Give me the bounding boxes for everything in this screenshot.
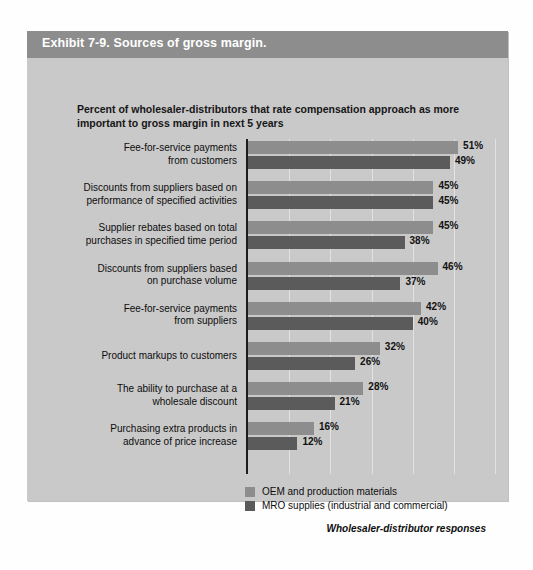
category-label-line: Purchasing extra products in [57,423,237,436]
category-label-line: Product markups to customers [57,350,237,363]
legend-label: MRO supplies (industrial and commercial) [262,500,448,511]
bar-row: 49% [248,156,533,169]
bar-value-label: 40% [418,316,438,327]
category-label-line: The ability to purchase at a [57,383,237,396]
bar-mro [248,196,433,209]
category-label: Supplier rebates based on totalpurchases… [57,222,237,247]
category-label-line: from suppliers [57,315,237,328]
bar-mro [248,317,413,330]
bar-group: Discounts from suppliers basedon purchas… [54,262,533,290]
bar-row: 51% [248,141,533,154]
bar-value-label: 16% [319,421,339,432]
bar-value-label: 45% [438,220,458,231]
bar-value-label: 26% [360,356,380,367]
bar-value-label: 37% [405,276,425,287]
category-label-line: wholesale discount [57,396,237,409]
bar-group: Supplier rebates based on totalpurchases… [54,221,533,249]
legend-item: OEM and production materials [245,486,448,497]
bar-mro [248,236,405,249]
bar-group: Product markups to customers32%26% [54,342,533,370]
legend-swatch [245,501,255,511]
category-label-line: Discounts from suppliers based [57,263,237,276]
bar-value-label: 32% [385,341,405,352]
bar-row: 40% [248,317,533,330]
chart-plot-area: Fee-for-service paymentsfrom customers51… [54,131,533,479]
category-label-line: from customers [57,155,237,168]
bar-mro [248,156,450,169]
bar-row: 42% [248,302,533,315]
bar-oem [248,141,458,154]
exhibit-title-bar: Exhibit 7-9. Sources of gross margin. [27,31,508,58]
category-label-line: Fee-for-service payments [57,142,237,155]
bar-value-label: 21% [340,396,360,407]
category-label-line: Fee-for-service payments [57,303,237,316]
bar-row: 45% [248,221,533,234]
bar-row: 12% [248,437,533,450]
bar-mro [248,357,355,370]
category-label-line: advance of price increase [57,436,237,449]
exhibit-page: Exhibit 7-9. Sources of gross margin. Pe… [0,0,533,570]
bar-row: 26% [248,357,533,370]
bar-value-label: 28% [368,381,388,392]
bar-oem [248,302,421,315]
chart-subtitle: Percent of wholesaler-distributors that … [77,103,502,130]
bar-row: 45% [248,196,533,209]
bar-oem [248,342,380,355]
bar-group: Purchasing extra products inadvance of p… [54,422,533,450]
legend-item: MRO supplies (industrial and commercial) [245,500,448,511]
bar-oem [248,181,433,194]
bar-mro [248,277,400,290]
bar-group: Fee-for-service paymentsfrom suppliers42… [54,302,533,330]
category-label: Discounts from suppliers basedon purchas… [57,263,237,288]
category-label-line: Supplier rebates based on total [57,222,237,235]
category-label: The ability to purchase at awholesale di… [57,383,237,408]
bar-row: 37% [248,277,533,290]
bar-value-label: 49% [455,155,475,166]
bar-value-label: 42% [426,301,446,312]
chart-legend: OEM and production materialsMRO supplies… [245,486,448,514]
category-label: Fee-for-service paymentsfrom customers [57,142,237,167]
bar-mro [248,437,297,450]
category-label-line: Discounts from suppliers based on [57,182,237,195]
category-label-line: purchases in specified time period [57,235,237,248]
legend-swatch [245,487,255,497]
bar-row: 46% [248,262,533,275]
bar-oem [248,422,314,435]
bar-row: 38% [248,236,533,249]
bar-value-label: 45% [438,180,458,191]
bar-value-label: 45% [438,195,458,206]
bar-group: Fee-for-service paymentsfrom customers51… [54,141,533,169]
category-label: Fee-for-service paymentsfrom suppliers [57,303,237,328]
category-label-line: on purchase volume [57,275,237,288]
bar-row: 32% [248,342,533,355]
category-label-line: performance of specified activities [57,195,237,208]
bar-oem [248,262,438,275]
bar-value-label: 46% [443,261,463,272]
bar-group: Discounts from suppliers based onperform… [54,181,533,209]
bar-mro [248,397,335,410]
category-label: Discounts from suppliers based onperform… [57,182,237,207]
bar-value-label: 38% [410,235,430,246]
bar-value-label: 51% [463,140,483,151]
category-label: Purchasing extra products inadvance of p… [57,423,237,448]
bar-value-label: 12% [302,436,322,447]
bar-row: 16% [248,422,533,435]
bar-oem [248,221,433,234]
exhibit-title: Exhibit 7-9. Sources of gross margin. [42,36,267,50]
category-label: Product markups to customers [57,350,237,363]
legend-label: OEM and production materials [262,486,397,497]
bar-row: 45% [248,181,533,194]
exhibit-panel: Exhibit 7-9. Sources of gross margin. Pe… [27,31,508,501]
bar-row: 28% [248,382,533,395]
bar-group: The ability to purchase at awholesale di… [54,382,533,410]
source-note: Wholesaler-distributor responses [327,523,486,534]
bar-oem [248,382,363,395]
bar-row: 21% [248,397,533,410]
